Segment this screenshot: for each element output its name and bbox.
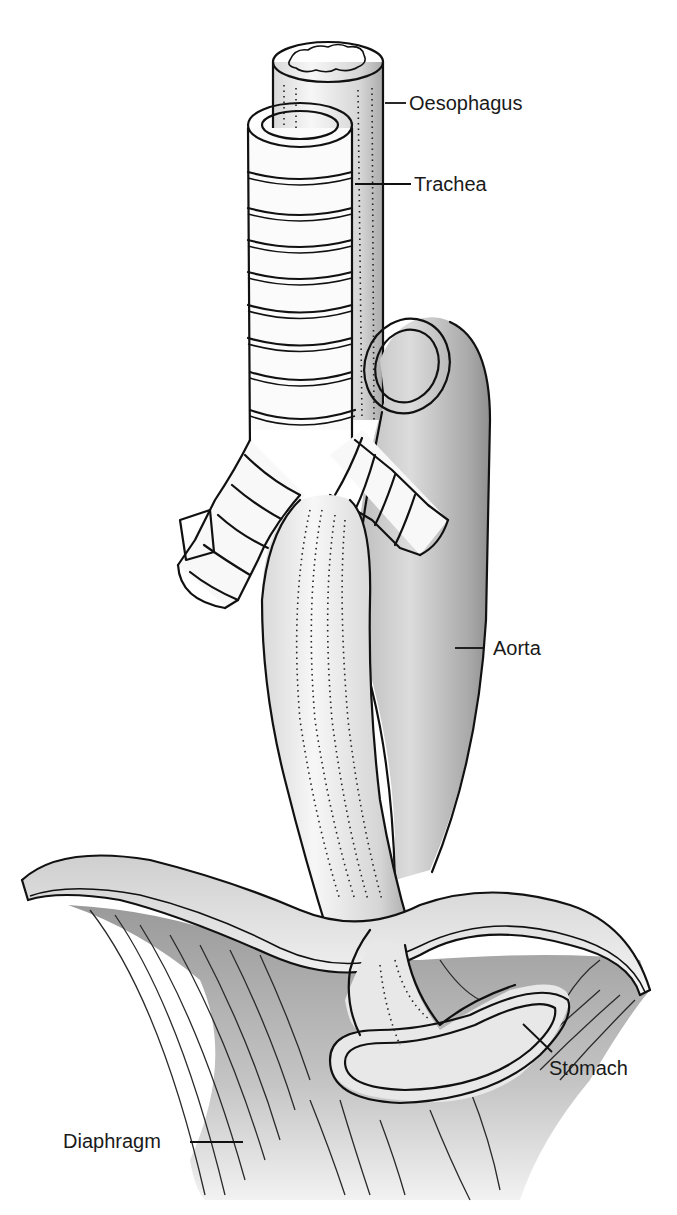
anatomy-diagram: Oesophagus Trachea Aorta Stomach Diaphra…	[0, 0, 677, 1215]
label-text-stomach: Stomach	[549, 1057, 628, 1079]
label-text-aorta: Aorta	[493, 637, 542, 659]
label-text-oesophagus: Oesophagus	[409, 92, 522, 114]
label-oesophagus: Oesophagus	[385, 92, 522, 114]
label-text-diaphragm: Diaphragm	[63, 1130, 161, 1152]
label-text-trachea: Trachea	[414, 173, 488, 195]
